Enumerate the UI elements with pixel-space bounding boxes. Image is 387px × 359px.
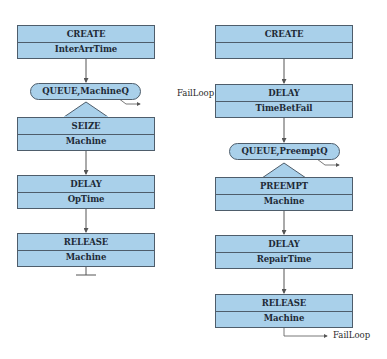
delay-block-repairtime[interactable]: DELAY RepairTime — [215, 235, 353, 269]
queue-block-preempt[interactable]: QUEUE,PreemptQ — [229, 143, 340, 160]
block-operand — [216, 41, 352, 58]
block-operand: TimeBetFail — [216, 100, 352, 117]
failloop-label: FailLoop — [177, 88, 214, 98]
diagram-canvas: CREATE InterArrTime QUEUE,MachineQ SEIZE… — [0, 0, 387, 359]
create-block[interactable]: CREATE InterArrTime — [17, 25, 155, 59]
queue-label: QUEUE,PreemptQ — [241, 146, 327, 156]
release-block-repair[interactable]: RELEASE Machine — [215, 294, 353, 328]
seize-block[interactable]: SEIZE Machine — [17, 117, 155, 151]
block-operand: Machine — [216, 193, 352, 210]
queue-block[interactable]: QUEUE,MachineQ — [30, 83, 141, 100]
delay-block[interactable]: DELAY OpTime — [17, 175, 155, 209]
block-operand: Machine — [216, 310, 352, 327]
failloop-exit-label: FailLoop — [333, 330, 370, 340]
delay-block-timebetfail[interactable]: DELAY TimeBetFail — [215, 84, 353, 118]
block-operand: InterArrTime — [18, 41, 154, 58]
block-operand: Machine — [18, 249, 154, 266]
queue-label: QUEUE,MachineQ — [42, 86, 129, 96]
release-block[interactable]: RELEASE Machine — [17, 233, 155, 267]
create-block-failures[interactable]: CREATE — [215, 25, 353, 59]
block-operand: RepairTime — [216, 251, 352, 268]
preempt-block[interactable]: PREEMPT Machine — [215, 177, 353, 211]
block-operand: OpTime — [18, 191, 154, 208]
block-operand: Machine — [18, 133, 154, 150]
